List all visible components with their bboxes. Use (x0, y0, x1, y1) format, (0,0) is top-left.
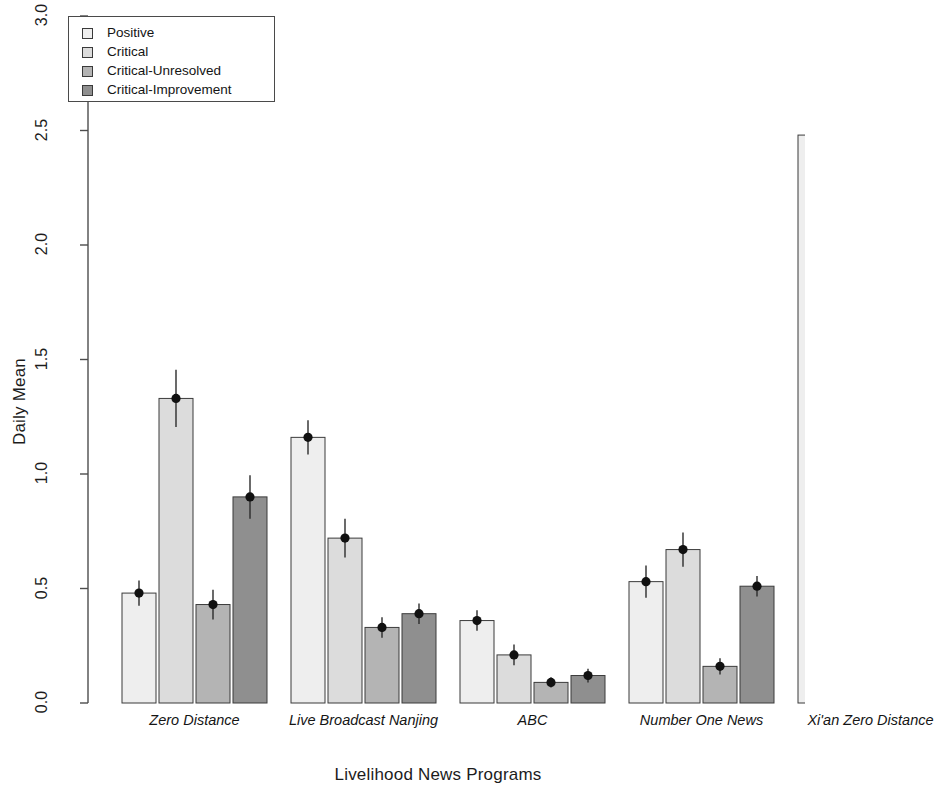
legend-item-critical-improvement: Critical-Improvement (82, 81, 274, 99)
legend-swatch-positive (82, 28, 93, 39)
legend-swatch-critical-unresolved (82, 66, 93, 77)
legend-item-critical-unresolved: Critical-Unresolved (82, 62, 274, 80)
bar (159, 398, 193, 703)
legend-swatch-critical-improvement (82, 85, 93, 96)
bar (365, 627, 399, 703)
legend-label-critical-improvement: Critical-Improvement (107, 83, 232, 97)
x-group-label: Xi'an Zero Distance (761, 712, 938, 728)
bar (328, 538, 362, 703)
bar (740, 586, 774, 703)
bar (798, 135, 805, 703)
bar (233, 497, 267, 703)
chart-legend: Positive Critical Critical-Unresolved Cr… (68, 16, 275, 102)
legend-item-critical: Critical (82, 43, 274, 61)
y-tick-label: 1.0 (33, 453, 51, 493)
y-tick-label: 2.5 (33, 110, 51, 150)
y-tick-label: 3.0 (33, 0, 51, 35)
y-tick-label: 0.5 (33, 568, 51, 608)
legend-label-positive: Positive (107, 26, 154, 40)
x-axis-title: Livelihood News Programs (88, 765, 788, 785)
legend-item-positive: Positive (82, 24, 274, 42)
bar (122, 593, 156, 703)
bar (629, 582, 663, 703)
bar (402, 614, 436, 703)
y-tick-label: 0.0 (33, 682, 51, 722)
legend-label-critical: Critical (107, 45, 148, 59)
bar (291, 437, 325, 703)
legend-swatch-critical (82, 47, 93, 58)
y-tick-label: 1.5 (33, 339, 51, 379)
legend-label-critical-unresolved: Critical-Unresolved (107, 64, 221, 78)
y-tick-label: 2.0 (33, 224, 51, 264)
bar (666, 550, 700, 703)
bar (460, 621, 494, 703)
